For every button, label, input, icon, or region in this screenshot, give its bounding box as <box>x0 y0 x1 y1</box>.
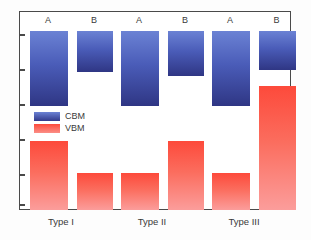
axis-tick-left <box>20 139 25 141</box>
legend-label-vbm: VBM <box>65 124 85 133</box>
group-label-type1: Type I <box>29 216 93 227</box>
group-label-type2: Type II <box>120 216 184 227</box>
bar-cbm-type2-b <box>168 31 204 76</box>
sub-label-type2-b: B <box>167 15 203 25</box>
axis-tick-left <box>20 174 25 176</box>
sub-label-type1-b: B <box>76 15 112 25</box>
sub-label-type3-a: A <box>211 15 249 25</box>
plot-area: CBM VBM <box>19 11 291 210</box>
axis-tick-left <box>20 69 25 71</box>
legend: CBM VBM <box>34 111 85 135</box>
bar-vbm-type2-a <box>121 173 159 210</box>
bar-vbm-type1-a <box>30 141 68 210</box>
group-label-type3: Type III <box>211 216 277 227</box>
chart-figure: CBM VBM A B A B A B Type I Type II Type … <box>0 0 311 240</box>
sub-label-type2-a: A <box>120 15 158 25</box>
bar-cbm-type3-a <box>212 31 250 106</box>
bar-cbm-type3-b <box>259 31 296 70</box>
bar-vbm-type3-a <box>212 173 250 210</box>
bar-vbm-type3-b <box>259 86 296 210</box>
bar-cbm-type2-a <box>121 31 159 106</box>
sub-label-type1-a: A <box>29 15 67 25</box>
bar-vbm-type2-b <box>168 141 204 210</box>
axis-tick-left <box>20 34 25 36</box>
bar-vbm-type1-b <box>77 173 113 210</box>
bar-cbm-type1-a <box>30 31 68 106</box>
axis-tick-left <box>20 204 25 206</box>
legend-label-cbm: CBM <box>65 112 85 121</box>
bar-cbm-type1-b <box>77 31 113 72</box>
legend-swatch-cbm <box>34 112 60 121</box>
legend-swatch-vbm <box>34 124 60 133</box>
sub-label-type3-b: B <box>258 15 295 25</box>
legend-item-vbm: VBM <box>34 123 85 134</box>
axis-tick-left <box>20 104 25 106</box>
legend-item-cbm: CBM <box>34 111 85 122</box>
